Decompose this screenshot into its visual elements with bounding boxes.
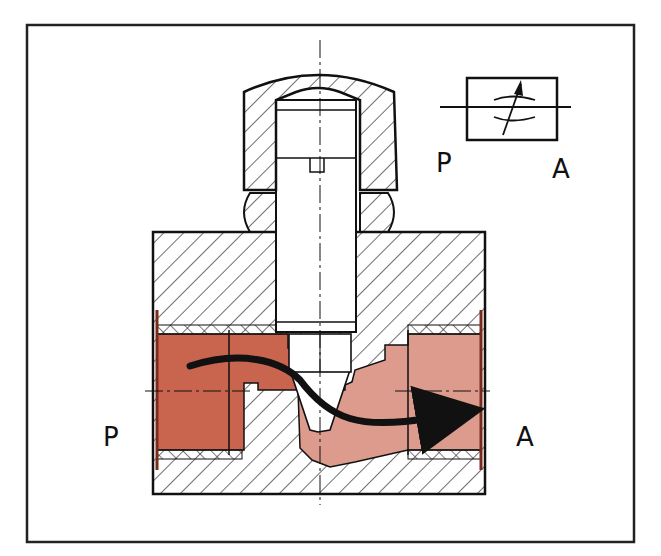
- valve-diagram: P A P A: [0, 0, 661, 556]
- needle-spindle: [276, 100, 356, 332]
- symbol-outlet-label: A: [552, 154, 570, 184]
- inlet-label: P: [103, 422, 119, 452]
- outlet-label: A: [516, 422, 534, 452]
- throttle-symbol: [440, 78, 571, 140]
- symbol-inlet-label: P: [436, 148, 452, 178]
